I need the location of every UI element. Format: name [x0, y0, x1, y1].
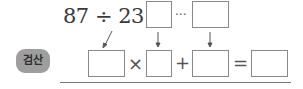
check-quotient-box[interactable]: [146, 50, 172, 77]
times-symbol: ×: [128, 54, 143, 74]
equals-symbol: =: [233, 53, 248, 73]
plus-symbol: +: [175, 53, 190, 73]
check-result-box[interactable]: [251, 50, 288, 77]
check-badge: 검산: [16, 49, 50, 73]
check-divisor-box[interactable]: [88, 50, 125, 77]
underline-rule: [60, 82, 291, 83]
check-remainder-box[interactable]: [192, 50, 229, 77]
